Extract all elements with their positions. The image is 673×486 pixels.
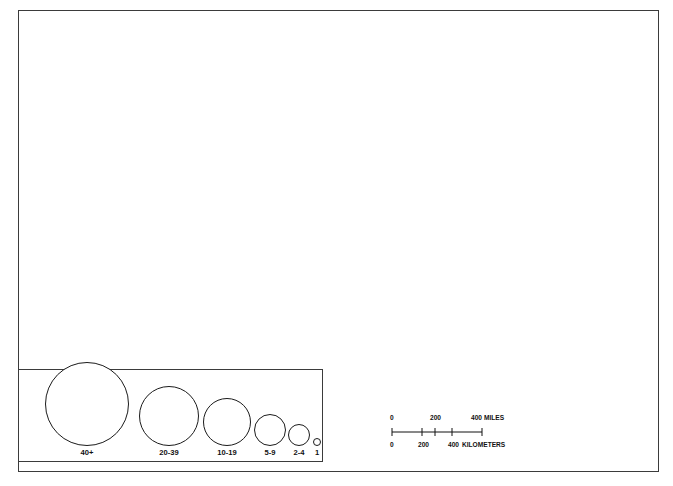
scale-km-tick-0: 0 bbox=[390, 441, 394, 448]
scale-bar-graphic bbox=[390, 425, 525, 439]
legend-caption: 20-39 bbox=[159, 448, 178, 457]
scale-km-unit: KILOMETERS bbox=[462, 441, 505, 448]
legend: 40+20-3910-195-92-41 bbox=[18, 369, 323, 462]
legend-circle bbox=[45, 362, 129, 446]
scale-miles-tick-0: 0 bbox=[390, 414, 394, 421]
scale-km-tick-2: 400 bbox=[448, 441, 459, 448]
legend-item: 40+ bbox=[45, 362, 129, 446]
legend-caption: 5-9 bbox=[265, 448, 276, 457]
legend-caption: 40+ bbox=[81, 448, 94, 457]
scale-miles-tick-1: 200 bbox=[430, 414, 441, 421]
legend-item: 10-19 bbox=[203, 398, 251, 446]
legend-caption: 1 bbox=[315, 448, 319, 457]
legend-caption: 10-19 bbox=[217, 448, 236, 457]
legend-circle bbox=[288, 424, 310, 446]
legend-item: 5-9 bbox=[254, 414, 286, 446]
legend-item: 1 bbox=[313, 438, 321, 446]
legend-caption: 2-4 bbox=[294, 448, 305, 457]
proportional-symbol-map: BCABSKMBONPQNBMEVTNHMARICTNYPANJDEMDWAOR… bbox=[0, 0, 673, 486]
scale-bar: 0 200 400 MILES 0 200 400 KILOMETERS bbox=[390, 414, 525, 456]
legend-circle bbox=[313, 438, 321, 446]
scale-km-tick-1: 200 bbox=[418, 441, 429, 448]
scale-miles-tick-2: 400 bbox=[471, 414, 482, 421]
legend-item: 2-4 bbox=[288, 424, 310, 446]
legend-circle bbox=[203, 398, 251, 446]
scale-miles-unit: MILES bbox=[484, 414, 504, 421]
legend-circle bbox=[254, 414, 286, 446]
legend-item: 20-39 bbox=[139, 386, 199, 446]
legend-circle bbox=[139, 386, 199, 446]
